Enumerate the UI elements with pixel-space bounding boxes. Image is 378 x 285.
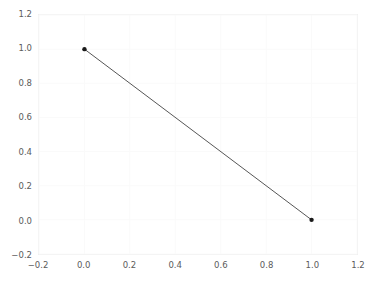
x-tick-label-6: 1.0 xyxy=(306,261,320,270)
y-tick-label-3: 0.4 xyxy=(0,147,32,156)
y-tick-label-5: 0.8 xyxy=(0,79,32,88)
x-tick-label-0: −0.2 xyxy=(28,261,49,270)
x-tick-label-7: 1.2 xyxy=(351,261,365,270)
x-tick-label-5: 0.8 xyxy=(260,261,274,270)
x-tick-label-3: 0.4 xyxy=(168,261,182,270)
x-tick-label-2: 0.2 xyxy=(123,261,137,270)
plot-area xyxy=(38,14,358,255)
y-tick-label-6: 1.0 xyxy=(0,44,32,53)
figure: −0.20.00.20.40.60.81.01.2 −0.20.00.20.40… xyxy=(0,0,378,285)
x-tick-label-4: 0.6 xyxy=(214,261,228,270)
y-tick-label-4: 0.6 xyxy=(0,113,32,122)
series-line-0 xyxy=(84,49,311,220)
y-tick-label-1: 0.0 xyxy=(0,216,32,225)
y-tick-label-0: −0.2 xyxy=(0,251,32,260)
data-point-marker xyxy=(82,47,86,51)
data-point-marker xyxy=(309,218,313,222)
y-tick-label-2: 0.2 xyxy=(0,182,32,191)
y-tick-label-7: 1.2 xyxy=(0,10,32,19)
x-tick-label-1: 0.0 xyxy=(77,261,91,270)
data-series-layer xyxy=(39,15,357,254)
